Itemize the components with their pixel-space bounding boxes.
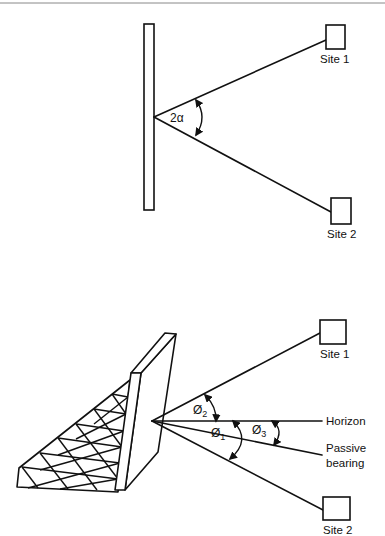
site-2-box — [331, 198, 351, 224]
angle-arc-icon — [196, 100, 202, 135]
reflector-bar — [144, 24, 154, 210]
horizon-label: Horizon — [326, 415, 366, 427]
site-1-box — [320, 320, 346, 344]
site-1-label: Site 1 — [320, 348, 349, 360]
passive-bearing-label-line1: Passive — [326, 442, 366, 454]
site-2-label: Site 2 — [323, 524, 352, 536]
site-1-label: Site 1 — [320, 53, 349, 65]
angle-label-phi2: Ø2 — [193, 403, 207, 419]
angle-arc-phi3-icon — [272, 421, 279, 445]
reflector-diagrams: 2α Site 1 Site 2 — [0, 0, 385, 536]
path-to-site-2 — [154, 117, 331, 212]
path-to-site-1 — [152, 333, 320, 421]
top-diagram: 2α Site 1 Site 2 — [144, 24, 356, 240]
angle-arc-phi1-icon — [230, 421, 242, 459]
passive-bearing-label-line2: bearing — [326, 457, 364, 469]
path-to-site-2 — [152, 421, 323, 510]
path-to-site-1 — [154, 40, 326, 117]
site-2-label: Site 2 — [327, 228, 356, 240]
angle-label-phi1: Ø1 — [211, 426, 225, 442]
lattice-support — [17, 380, 130, 492]
angle-label-phi3: Ø3 — [252, 423, 266, 439]
angle-label-2alpha: 2α — [170, 111, 184, 125]
site-1-box — [326, 25, 345, 49]
site-2-box — [323, 497, 350, 520]
bottom-diagram: Ø2 Ø1 Ø3 Horizon Passive bearing Site 1 … — [17, 320, 366, 536]
